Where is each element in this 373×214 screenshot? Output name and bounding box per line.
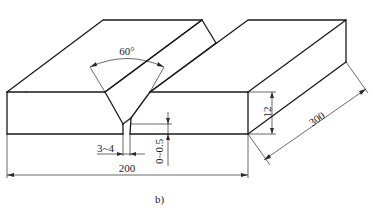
- thickness-dimension: 12: [248, 92, 276, 134]
- groove-angle-dimension: 60°: [90, 45, 164, 92]
- thickness-label: 12: [261, 107, 273, 118]
- weld-groove-drawing: 60° 3~4 0~0.5 200 12: [0, 0, 373, 214]
- root-face-label: 0~0.5: [153, 138, 165, 164]
- root-face-dimension: 0~0.5: [131, 112, 172, 166]
- width-dimension: 200: [7, 134, 248, 178]
- root-gap-label: 3~4: [97, 142, 114, 154]
- right-bevel-back-line: [150, 43, 216, 92]
- left-plate: [7, 20, 216, 134]
- length-label: 300: [307, 109, 328, 129]
- width-label: 200: [119, 162, 136, 174]
- groove-angle-label: 60°: [119, 45, 134, 57]
- figure-caption: b): [155, 193, 165, 206]
- root-gap-dimension: 3~4: [97, 134, 145, 156]
